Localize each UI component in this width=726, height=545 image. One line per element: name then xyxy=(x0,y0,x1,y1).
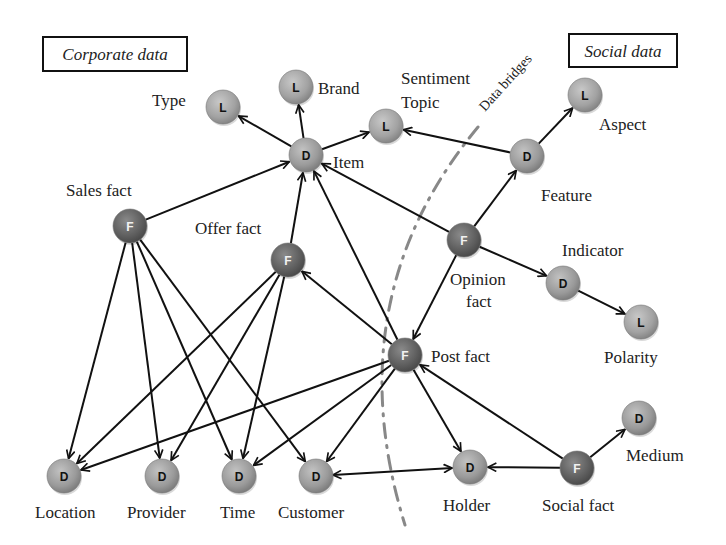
node-holder: D xyxy=(453,450,488,486)
social-data-label: Social data xyxy=(585,42,662,61)
edge-post-fact-to-holder xyxy=(414,370,461,452)
edge-offer-fact-to-item xyxy=(291,173,303,244)
edge-offer-fact-to-time xyxy=(243,277,284,459)
label-opinion-fact: Opinion xyxy=(450,270,506,289)
label-location: Location xyxy=(35,503,96,522)
label-indicator: Indicator xyxy=(562,241,624,260)
label-post-fact: Post fact xyxy=(431,347,490,366)
node-time: D xyxy=(222,459,257,495)
node-letter: F xyxy=(460,234,467,248)
node-letter: F xyxy=(284,254,291,268)
social-data-region: Social data xyxy=(569,34,677,67)
node-customer: D xyxy=(299,459,334,495)
node-brand: L xyxy=(279,70,314,106)
edge-feature-to-sentiment-topic xyxy=(404,130,511,153)
node-aspect: L xyxy=(568,78,603,114)
corporate-data-label: Corporate data xyxy=(62,45,167,64)
node-letter: D xyxy=(559,277,568,291)
edge-customer-to-holder xyxy=(333,468,452,475)
label-brand: Brand xyxy=(318,79,360,98)
label-aspect: Aspect xyxy=(599,115,646,134)
label-type: Type xyxy=(152,91,186,110)
node-type: L xyxy=(206,90,241,126)
node-offer-fact: F xyxy=(271,243,306,279)
node-letter: D xyxy=(523,150,532,164)
node-item: D xyxy=(289,138,324,174)
node-letter: L xyxy=(581,89,588,103)
label-customer: Customer xyxy=(278,503,344,522)
label-social-fact: Social fact xyxy=(542,496,614,515)
node-letter: D xyxy=(235,470,244,484)
node-letter: D xyxy=(302,149,311,163)
node-letter: L xyxy=(382,120,389,134)
data-bridges-label: Data bridges xyxy=(476,51,535,114)
node-letter: F xyxy=(401,349,408,363)
edge-opinion-fact-to-feature xyxy=(474,170,516,226)
edge-social-fact-to-post-fact xyxy=(420,365,563,459)
edge-indicator-to-polarity xyxy=(578,291,625,314)
label-time: Time xyxy=(220,503,255,522)
node-post-fact: F xyxy=(388,338,423,374)
label-sales-fact: Sales fact xyxy=(66,181,132,200)
edge-sales-fact-to-item xyxy=(146,162,290,220)
node-opinion-fact: F xyxy=(447,223,482,259)
label-polarity: Polarity xyxy=(604,348,658,367)
edge-feature-to-aspect xyxy=(539,108,573,144)
corporate-data-region: Corporate data xyxy=(43,37,187,71)
node-letter: L xyxy=(292,81,299,95)
node-letter: D xyxy=(312,470,321,484)
label-medium: Medium xyxy=(626,446,684,465)
edge-social-fact-to-medium xyxy=(590,429,625,457)
label-feature: Feature xyxy=(541,186,592,205)
label-offer-fact: Offer fact xyxy=(195,219,262,238)
edge-item-to-sentiment-topic xyxy=(322,132,369,149)
node-letter: L xyxy=(637,316,644,330)
region-boxes: Corporate dataSocial data xyxy=(43,34,677,71)
edge-item-to-brand xyxy=(299,105,304,138)
node-polarity: L xyxy=(624,305,659,341)
node-letter: D xyxy=(635,412,644,426)
label-sentiment-topic: Sentiment xyxy=(401,69,470,88)
node-letter: D xyxy=(60,470,69,484)
node-letter: D xyxy=(466,461,475,475)
label-item: Item xyxy=(333,153,364,172)
edge-sales-fact-to-provider xyxy=(132,243,160,458)
nodes: LLDLLDFFFDLFDDDDDFD xyxy=(47,70,659,495)
node-sales-fact: F xyxy=(113,209,148,245)
node-sentiment-topic: L xyxy=(369,109,404,145)
label-holder: Holder xyxy=(443,496,491,515)
node-indicator: D xyxy=(546,266,581,302)
node-letter: D xyxy=(158,470,167,484)
node-letter: L xyxy=(219,101,226,115)
node-feature: D xyxy=(510,139,545,175)
label-provider: Provider xyxy=(127,503,186,522)
label-sentiment-topic-line2: Topic xyxy=(401,93,440,112)
multidimensional-model-diagram: Corporate dataSocial data Data bridges L… xyxy=(0,0,726,545)
edge-item-to-type xyxy=(239,116,292,146)
edge-social-fact-to-holder xyxy=(488,467,560,468)
node-medium: D xyxy=(622,401,657,437)
node-letter: F xyxy=(573,462,580,476)
edge-offer-fact-to-location xyxy=(77,272,276,464)
node-provider: D xyxy=(145,459,180,495)
edge-post-fact-to-offer-fact xyxy=(302,271,392,344)
edge-post-fact-to-time xyxy=(254,365,392,465)
edge-sales-fact-to-time xyxy=(137,242,232,460)
node-letter: F xyxy=(126,220,133,234)
node-social-fact: F xyxy=(560,451,595,487)
node-location: D xyxy=(47,459,82,495)
label-opinion-fact-line2: fact xyxy=(466,292,492,311)
edge-opinion-fact-to-post-fact xyxy=(413,255,456,339)
